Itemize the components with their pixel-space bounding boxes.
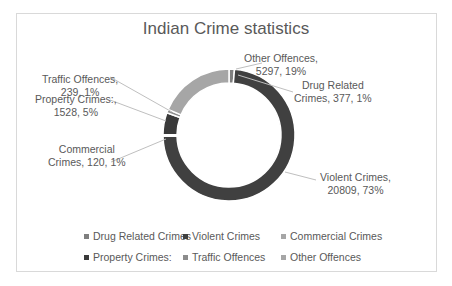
donut-segment-other-offences: [168, 69, 229, 115]
legend-item-traffic-offences: Traffic Offences: [183, 251, 265, 263]
legend-swatch-icon: [183, 234, 188, 239]
legend-swatch-icon: [84, 234, 89, 239]
data-label-violent-crimes: Violent Crimes, 20809, 73%: [320, 171, 391, 197]
legend-swatch-icon: [183, 255, 188, 260]
legend-item-other-offences: Other Offences: [281, 251, 361, 263]
data-label-other-offences: Other Offences, 5297, 19%: [244, 52, 318, 78]
legend-swatch-icon: [84, 255, 89, 260]
legend-swatch-icon: [281, 255, 286, 260]
legend-item-violent-crimes: Violent Crimes: [183, 230, 260, 242]
legend-swatch-icon: [281, 234, 286, 239]
legend-item-commercial-crimes: Commercial Crimes: [281, 230, 382, 242]
data-label-drug-related: Drug Related Crimes, 377, 1%: [294, 79, 372, 105]
data-label-property-crimes: Property Crimes:, 1528, 5%: [35, 93, 117, 119]
data-label-commercial-crimes: Commercial Crimes, 120, 1%: [48, 143, 126, 169]
legend-item-drug-related: Drug Related Crimes: [84, 230, 191, 242]
legend-item-property-crimes: Property Crimes:: [84, 251, 172, 263]
donut-ring: [163, 69, 295, 201]
